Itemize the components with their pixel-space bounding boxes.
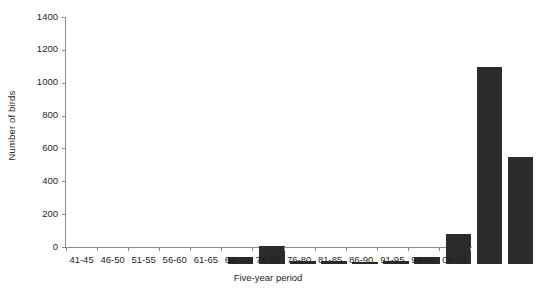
- x-axis-tick-mark: [190, 247, 191, 251]
- x-axis-tick-label: 56-60: [159, 254, 190, 265]
- plot-area: [66, 17, 470, 247]
- x-axis-tick-mark: [346, 247, 347, 251]
- bar-slot: [225, 34, 256, 264]
- y-axis-title-label: Number of birds: [7, 90, 18, 160]
- x-axis-tick-mark: [377, 247, 378, 251]
- y-axis-tick-label: 200: [42, 208, 58, 219]
- x-axis-tick-mark: [252, 247, 253, 251]
- x-axis-tick-mark: [66, 247, 67, 251]
- x-axis-tick-label: 96-00: [408, 254, 439, 265]
- x-axis-tick-mark: [221, 247, 222, 251]
- x-axis-tick-label: 51-55: [128, 254, 159, 265]
- x-axis-tick-mark: [439, 247, 440, 251]
- bar-slot: [350, 34, 381, 264]
- bar-slot: [474, 34, 505, 264]
- x-axis-tick-mark: [159, 247, 160, 251]
- x-axis-tick-label: 91-95: [377, 254, 408, 265]
- bar: [508, 157, 533, 264]
- bar-slot: [443, 34, 474, 264]
- bar-slot: [412, 34, 443, 264]
- x-axis-tick-mark: [470, 247, 471, 251]
- x-axis-tick-label: 76-80: [284, 254, 315, 265]
- bar-slot: [256, 34, 287, 264]
- y-axis-title: Number of birds: [0, 0, 24, 250]
- y-axis-tick-label: 1200: [37, 43, 58, 54]
- bar: [477, 67, 502, 264]
- x-axis-tick-label: 71-75: [252, 254, 283, 265]
- bar-slot: [381, 34, 412, 264]
- y-axis-tick-label: 600: [42, 142, 58, 153]
- x-axis-tick-mark: [408, 247, 409, 251]
- x-axis-title: Five-year period: [66, 272, 470, 283]
- x-axis-tick-mark: [315, 247, 316, 251]
- y-axis-tick-label: 0: [53, 241, 58, 252]
- bar-slot: [163, 34, 194, 264]
- x-axis-tick-label: 81-85: [315, 254, 346, 265]
- y-axis-tick-label: 1400: [37, 11, 58, 22]
- x-axis-tick-label: 46-50: [97, 254, 128, 265]
- bar-slot: [194, 34, 225, 264]
- x-axis-tick-label: 41-45: [66, 254, 97, 265]
- x-axis-tick-label: 61-65: [190, 254, 221, 265]
- x-axis-tick-mark: [97, 247, 98, 251]
- y-axis-tick-label: 400: [42, 175, 58, 186]
- bars-layer: [132, 34, 536, 264]
- y-axis-tick-label: 800: [42, 109, 58, 120]
- bar-slot: [132, 34, 163, 264]
- x-axis-tick-mark: [284, 247, 285, 251]
- x-axis-tick-mark: [128, 247, 129, 251]
- bar-slot: [318, 34, 349, 264]
- bar-slot: [505, 34, 536, 264]
- x-axis-tick-label: 66-70: [221, 254, 252, 265]
- y-axis-tick-label: 1000: [37, 76, 58, 87]
- x-axis-tick-label: 01-05: [439, 254, 470, 265]
- bar-slot: [287, 34, 318, 264]
- x-axis-tick-label: 86-90: [346, 254, 377, 265]
